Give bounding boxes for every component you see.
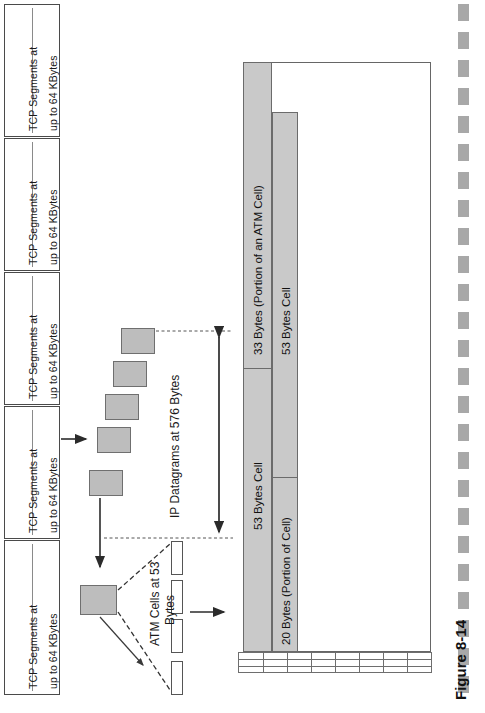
fan-line-bottom <box>118 612 170 690</box>
connector-overlay <box>0 0 485 713</box>
fan-line-top <box>118 544 170 590</box>
figure-canvas: TCP Segments at up to 64 KBytes TCP Segm… <box>0 0 485 713</box>
arrow-diagonal <box>100 617 143 665</box>
